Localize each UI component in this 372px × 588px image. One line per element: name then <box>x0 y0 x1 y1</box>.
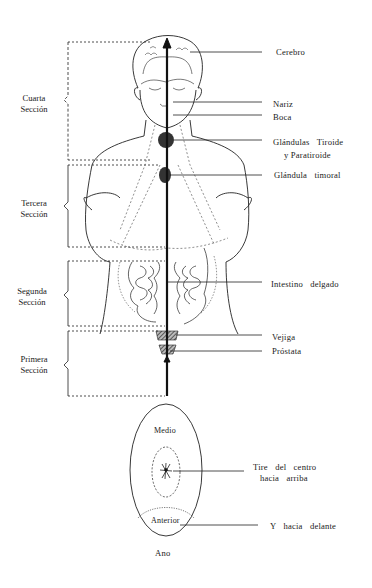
bracket-tercera <box>64 165 165 247</box>
bracket-cuarta <box>64 42 150 160</box>
thymus-gland <box>159 167 171 183</box>
label-nariz: Nariz <box>273 99 293 109</box>
label-prostata: Próstata <box>272 346 301 356</box>
label-boca: Boca <box>273 112 291 122</box>
section-name: Segunda <box>4 286 60 297</box>
section-label-tercera: Tercera Sección <box>6 198 62 220</box>
bracket-segunda <box>64 261 165 326</box>
section-label-segunda: Segunda Sección <box>4 286 60 308</box>
section-word: Sección <box>6 104 62 115</box>
label-paratiroide: y Paratiroide <box>284 150 331 160</box>
section-name: Cuarta <box>6 93 62 104</box>
label-tiroide: Glándulas Tiroide <box>273 137 343 147</box>
section-word: Sección <box>6 209 62 220</box>
section-brackets <box>64 42 165 396</box>
label-delante: Y hacia delante <box>270 521 336 531</box>
perineum-diagram <box>130 404 258 536</box>
section-label-cuarta: Cuarta Sección <box>6 93 62 115</box>
label-tire: Tire del centro <box>253 462 316 472</box>
label-hacia-arriba: hacia arriba <box>260 473 308 483</box>
section-word: Sección <box>6 365 62 376</box>
bracket-primera <box>64 331 165 396</box>
section-name: Tercera <box>6 198 62 209</box>
section-label-primera: Primera Sección <box>6 354 62 376</box>
central-channel-arrow <box>163 38 171 396</box>
label-vejiga: Vejiga <box>272 332 295 342</box>
label-ano: Ano <box>155 548 170 558</box>
label-cerebro: Cerebro <box>276 47 305 57</box>
section-name: Primera <box>6 354 62 365</box>
label-medio: Medio <box>154 426 176 436</box>
label-timoral: Glándula timoral <box>274 170 341 180</box>
label-intestino: Intestino delgado <box>271 279 339 289</box>
label-anterior: Anterior <box>151 516 180 526</box>
perineum-center-icon <box>160 463 172 479</box>
leader-lines <box>168 52 262 351</box>
center-region <box>152 447 180 497</box>
section-word: Sección <box>4 297 60 308</box>
